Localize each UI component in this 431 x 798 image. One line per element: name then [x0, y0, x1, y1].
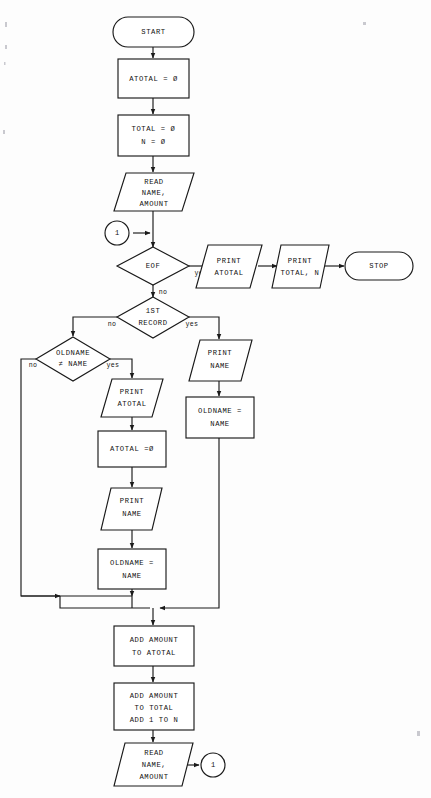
node-oldname-ne-name-line1: OLDNAME	[56, 349, 90, 357]
node-print-atotal-end-line1: PRINT	[217, 257, 241, 265]
node-add-amount-atotal-line1: ADD AMOUNT	[130, 636, 179, 644]
node-read-next[interactable]: READ NAME, AMOUNT	[114, 743, 193, 786]
edge-label-first-record-yes: yes	[186, 321, 199, 328]
node-first-record-line1: 1ST	[146, 307, 161, 315]
node-print-total-n[interactable]: PRINT TOTAL, N	[272, 245, 329, 288]
node-add-amount-atotal[interactable]: ADD AMOUNT TO ATOTAL	[114, 626, 194, 666]
node-print-atotal-end[interactable]: PRINT ATOTAL	[196, 245, 262, 288]
node-stop[interactable]: STOP	[345, 252, 413, 280]
node-reset-atotal-label: ATOTAL =Ø	[110, 445, 154, 453]
node-read-first-line2: NAME,	[142, 189, 166, 197]
node-print-name-break[interactable]: PRINT NAME	[101, 488, 162, 530]
node-print-atotal-break-line1: PRINT	[120, 388, 144, 396]
edge-label-first-record-no: no	[108, 321, 117, 328]
edge-label-eof-no: no	[159, 289, 168, 296]
node-start-label: START	[141, 28, 165, 36]
node-init-atotal[interactable]: ATOTAL = Ø	[118, 59, 189, 98]
node-reset-atotal[interactable]: ATOTAL =Ø	[98, 431, 166, 467]
node-add-amount-total-line2: TO TOTAL	[135, 704, 174, 712]
node-first-record-line2: RECORD	[138, 319, 167, 327]
node-print-name-break-line2: NAME	[122, 510, 141, 518]
edge-oldname-no	[21, 359, 60, 596]
node-connector-out[interactable]: 1	[201, 753, 225, 777]
node-eof[interactable]: EOF	[117, 247, 189, 285]
node-connector-out-label: 1	[211, 761, 215, 769]
node-read-first[interactable]: READ NAME, AMOUNT	[114, 173, 194, 211]
node-print-atotal-end-line2: ATOTAL	[214, 269, 243, 277]
node-print-name-first-line2: NAME	[210, 362, 229, 370]
node-add-amount-total-line3: ADD 1 TO N	[130, 716, 179, 724]
node-set-oldname-break[interactable]: OLDNAME = NAME	[98, 549, 166, 589]
node-add-amount-atotal-line2: TO ATOTAL	[132, 649, 176, 657]
node-first-record[interactable]: 1ST RECORD	[117, 297, 189, 338]
node-connector-in-label: 1	[115, 229, 119, 237]
node-print-atotal-break-line2: ATOTAL	[117, 400, 146, 408]
node-set-oldname-break-line2: NAME	[122, 572, 141, 580]
node-init-atotal-label: ATOTAL = Ø	[129, 75, 178, 83]
edge-set-oldname-first-to-merge	[160, 438, 219, 608]
node-add-amount-total-line1: ADD AMOUNT	[130, 692, 179, 700]
node-init-total-n-line1: TOTAL = Ø	[132, 125, 176, 133]
node-print-total-n-line1: PRINT	[288, 257, 312, 265]
node-eof-label: EOF	[146, 262, 161, 270]
merge-rail-step-left	[60, 596, 150, 608]
node-read-next-line3: AMOUNT	[139, 773, 168, 781]
node-add-amount-total[interactable]: ADD AMOUNT TO TOTAL ADD 1 TO N	[114, 683, 194, 730]
node-print-name-first-line1: PRINT	[208, 349, 232, 357]
node-print-name-first[interactable]: PRINT NAME	[189, 340, 252, 381]
node-set-oldname-first-line1: OLDNAME =	[198, 407, 242, 415]
node-print-name-break-line1: PRINT	[120, 497, 144, 505]
flowchart-canvas: START ATOTAL = Ø TOTAL = Ø N = Ø READ NA…	[0, 0, 431, 798]
flowchart-svg: START ATOTAL = Ø TOTAL = Ø N = Ø READ NA…	[0, 0, 431, 798]
node-start[interactable]: START	[113, 17, 194, 47]
node-init-total-n[interactable]: TOTAL = Ø N = Ø	[118, 115, 189, 156]
node-set-oldname-break-line1: OLDNAME =	[110, 559, 154, 567]
node-print-total-n-line2: TOTAL, N	[281, 269, 320, 277]
node-connector-in[interactable]: 1	[105, 221, 129, 245]
node-init-total-n-line2: N = Ø	[141, 138, 165, 146]
node-oldname-ne-name-line2: ≠ NAME	[58, 360, 87, 368]
node-set-oldname-first-line2: NAME	[210, 420, 229, 428]
node-oldname-ne-name[interactable]: OLDNAME ≠ NAME	[36, 337, 110, 381]
node-read-first-line1: READ	[144, 178, 163, 186]
node-read-next-line2: NAME,	[142, 761, 166, 769]
edge-label-oldname-yes: yes	[107, 362, 120, 369]
node-print-atotal-break[interactable]: PRINT ATOTAL	[101, 379, 163, 417]
edge-label-oldname-no: no	[29, 362, 38, 369]
node-read-first-line3: AMOUNT	[139, 200, 168, 208]
node-read-next-line1: READ	[144, 749, 163, 757]
node-stop-label: STOP	[369, 262, 388, 270]
node-set-oldname-first[interactable]: OLDNAME = NAME	[186, 397, 254, 438]
